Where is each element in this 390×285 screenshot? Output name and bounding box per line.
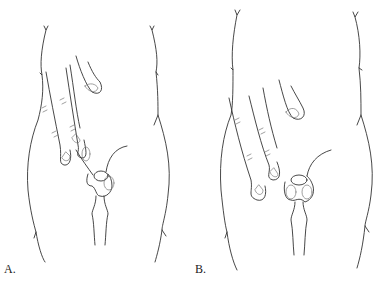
panel-a-drawing — [0, 0, 195, 285]
thumbnail — [85, 84, 98, 92]
thumbnail — [286, 108, 299, 117]
thigh-inner-left — [291, 202, 295, 255]
finger-middle — [249, 96, 280, 180]
thigh-inner-right — [104, 196, 108, 245]
finger-index — [46, 72, 71, 165]
panel-label-a: A. — [4, 262, 16, 277]
torso-right-contour — [353, 12, 372, 268]
thigh-inner-left — [92, 196, 96, 245]
spermatic-cord-right — [106, 146, 127, 172]
medical-illustration-figure: A. — [0, 0, 390, 285]
panel-b-drawing — [195, 0, 390, 285]
testis — [104, 176, 114, 190]
penis-glans — [94, 171, 108, 181]
torso-right-contour — [150, 26, 169, 262]
torso-left-contour — [27, 26, 48, 262]
finger-middle — [66, 68, 86, 158]
finger-ring-edge — [263, 88, 277, 148]
finger-index — [229, 98, 266, 200]
fingernail-index — [62, 152, 70, 161]
fingernail-index — [255, 185, 263, 195]
thumb — [279, 80, 304, 119]
spermatic-cord-right — [307, 150, 331, 176]
torso-left-contour — [220, 10, 240, 270]
thigh-inner-right — [303, 202, 307, 255]
finger-ring-edge — [70, 65, 80, 128]
spermatic-cord-left — [76, 150, 93, 175]
panel-b: B. — [195, 0, 390, 285]
knuckle-creases — [42, 98, 75, 137]
panel-label-b: B. — [195, 262, 206, 277]
fingernail-middle — [72, 134, 80, 143]
penis-glans — [291, 175, 307, 185]
testis-right — [302, 185, 312, 199]
testis-left — [286, 185, 296, 199]
fingernail-middle — [270, 168, 278, 177]
panel-a: A. — [0, 0, 195, 285]
